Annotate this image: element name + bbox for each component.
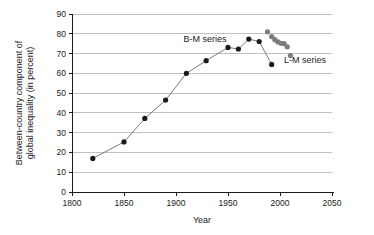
series-1 [90, 37, 274, 161]
data-point-1-11 [269, 62, 274, 67]
x-tick-label-2050: 2050 [323, 198, 342, 208]
data-point-1-2 [121, 139, 126, 144]
chart-container: 0102030405060708090180018501900195020002… [0, 0, 374, 235]
data-point-1-9 [246, 37, 251, 42]
x-axis-title: Year [193, 215, 211, 225]
data-point-2-1 [265, 29, 270, 34]
y-axis-title-line-1: Between-country component of [14, 40, 24, 165]
y-tick-label-60: 60 [57, 68, 67, 78]
data-point-1-1 [90, 156, 95, 161]
x-axis-ticks: 180018501900195020002050 [63, 192, 342, 208]
y-tick-label-0: 0 [61, 187, 66, 197]
y-tick-label-30: 30 [57, 128, 67, 138]
series-annotation-2: L-M series [284, 55, 327, 65]
data-point-1-10 [257, 39, 262, 44]
data-point-1-7 [225, 45, 230, 50]
y-tick-label-40: 40 [57, 108, 67, 118]
x-tick-label-1800: 1800 [63, 198, 82, 208]
y-tick-label-10: 10 [57, 167, 67, 177]
x-tick-label-2000: 2000 [271, 198, 290, 208]
y-axis-title-line-2: global inequality (in percent) [25, 47, 35, 160]
y-tick-label-80: 80 [57, 29, 67, 39]
x-tick-label-1900: 1900 [167, 198, 186, 208]
y-tick-label-50: 50 [57, 88, 67, 98]
data-point-1-6 [204, 58, 209, 63]
data-point-1-5 [184, 71, 189, 76]
y-tick-label-90: 90 [57, 9, 67, 19]
y-tick-label-70: 70 [57, 49, 67, 59]
y-axis-ticks: 0102030405060708090 [57, 9, 72, 197]
data-point-2-7 [285, 44, 290, 49]
data-point-1-4 [163, 97, 168, 102]
x-tick-label-1950: 1950 [219, 198, 238, 208]
data-point-1-3 [142, 116, 147, 121]
series-line-1 [93, 39, 272, 158]
y-tick-label-20: 20 [57, 147, 67, 157]
series-annotation-1: B-M series [184, 34, 228, 44]
x-tick-label-1850: 1850 [115, 198, 134, 208]
inequality-line-chart: 0102030405060708090180018501900195020002… [0, 0, 374, 235]
data-point-1-8 [236, 46, 241, 51]
y-axis-title: Between-country component ofglobal inequ… [14, 40, 35, 165]
